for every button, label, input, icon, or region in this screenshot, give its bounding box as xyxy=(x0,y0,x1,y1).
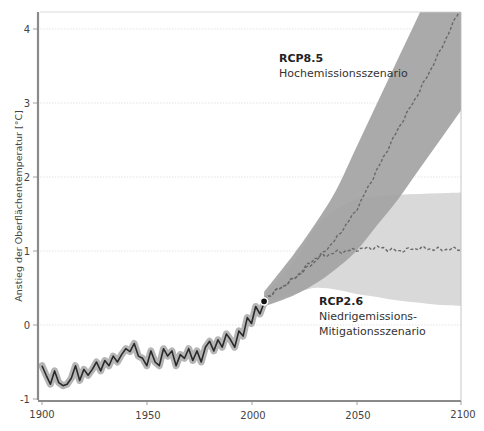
present-day-marker xyxy=(260,298,267,305)
observed-line-halo xyxy=(42,303,264,386)
x-tick-2050: 2050 xyxy=(345,410,370,421)
rcp85-description: Hochemissionsszenario xyxy=(279,67,408,80)
y-tick-minus1: -1 xyxy=(20,394,30,405)
y-tick-2: 2 xyxy=(24,172,30,183)
x-tick-2100: 2100 xyxy=(450,409,475,420)
rcp26-label: RCP2.6 xyxy=(319,295,363,308)
y-tick-0: 0 xyxy=(24,320,30,331)
y-tick-1: 1 xyxy=(24,246,30,257)
rcp26-description-line1: Niedrigemissions- xyxy=(319,310,417,323)
y-axis-title: Anstieg der Oberflächentemperatur [°C] xyxy=(13,110,24,302)
y-tick-4: 4 xyxy=(24,24,30,35)
rcp85-label: RCP8.5 xyxy=(279,52,323,65)
x-tick-2000: 2000 xyxy=(240,410,265,421)
x-axis-ticks: 1900 1950 2000 2050 2100 xyxy=(29,401,475,421)
rcp26-description-line2: Mitigationsszenario xyxy=(319,325,426,338)
y-tick-3: 3 xyxy=(24,98,30,109)
x-tick-1950: 1950 xyxy=(135,410,160,421)
x-tick-1900: 1900 xyxy=(29,409,54,420)
temperature-projection-chart: 4 3 2 1 0 -1 1900 1950 2000 2050 2100 An… xyxy=(0,0,484,431)
